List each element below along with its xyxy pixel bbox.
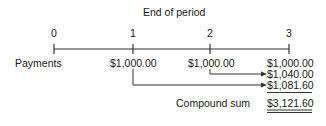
arrow-period1-to-3: [133, 69, 267, 88]
future-value-period-1: $1,081.60: [267, 79, 314, 91]
arrow-period2-to-3: [210, 69, 267, 77]
tick-label-2: 2: [207, 27, 213, 39]
tick-label-3: 3: [286, 27, 292, 39]
payment-period-2: $1,000.00: [188, 57, 235, 69]
tick-label-0: 0: [51, 27, 57, 39]
tick-label-1: 1: [130, 27, 136, 39]
compound-sum-label: Compound sum: [176, 97, 250, 109]
diagram-title: End of period: [143, 6, 205, 18]
payment-period-1: $1,000.00: [110, 57, 157, 69]
payments-label: Payments: [15, 57, 62, 69]
compound-sum-value: $3,121.60: [267, 97, 314, 109]
